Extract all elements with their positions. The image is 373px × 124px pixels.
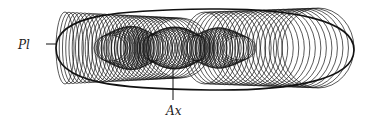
loop-ellipse bbox=[252, 9, 315, 87]
ax-label: Ax bbox=[165, 104, 182, 118]
loop-ellipse bbox=[181, 34, 207, 62]
pl-label: Pl bbox=[17, 38, 30, 52]
ellipse-loop-diagram: Pl Ax bbox=[0, 0, 373, 124]
loop-ellipse bbox=[217, 11, 271, 86]
loop-curves bbox=[56, 8, 354, 90]
loop-ellipse bbox=[56, 12, 74, 84]
loop-ellipse bbox=[143, 33, 169, 62]
loop-ellipse bbox=[278, 8, 349, 88]
loop-ellipse bbox=[269, 9, 337, 88]
